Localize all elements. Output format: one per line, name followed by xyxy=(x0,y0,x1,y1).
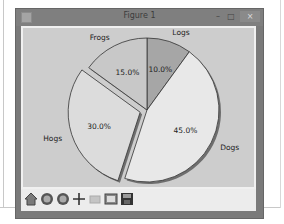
slice-label: Frogs xyxy=(90,33,110,42)
plot-area: Logs10.0%Dogs45.0%Hogs30.0%Frogs15.0% xyxy=(23,28,254,187)
home-button[interactable] xyxy=(23,191,38,207)
back-button[interactable] xyxy=(39,191,54,207)
save-button[interactable] xyxy=(119,191,134,207)
home-icon xyxy=(24,192,38,206)
forward-icon xyxy=(56,192,70,206)
zoom-button[interactable] xyxy=(87,191,102,207)
pie-chart: Logs10.0%Dogs45.0%Hogs30.0%Frogs15.0% xyxy=(23,28,254,187)
forward-button[interactable] xyxy=(55,191,70,207)
zoom-icon xyxy=(88,192,102,206)
slice-label: Hogs xyxy=(43,134,62,143)
page-border xyxy=(3,0,4,207)
title-bar[interactable]: Figure 1 – □ × xyxy=(16,9,263,26)
slice-label: Logs xyxy=(172,28,189,37)
back-icon xyxy=(40,192,54,206)
figure-window: Figure 1 – □ × Logs10.0%Dogs45.0%Hogs30.… xyxy=(16,9,263,218)
slice-percent-label: 15.0% xyxy=(115,68,139,77)
pan-icon xyxy=(72,192,86,206)
slice-percent-label: 30.0% xyxy=(87,122,111,131)
page-border xyxy=(280,0,281,208)
slice-percent-label: 45.0% xyxy=(174,126,198,135)
figure-canvas[interactable]: Logs10.0%Dogs45.0%Hogs30.0%Frogs15.0% xyxy=(21,26,256,189)
slice-percent-label: 10.0% xyxy=(148,65,172,74)
subplots-icon xyxy=(104,192,118,206)
maximize-button[interactable]: □ xyxy=(225,11,237,22)
save-icon xyxy=(120,192,134,206)
close-button[interactable]: × xyxy=(240,11,260,22)
configure-subplots-button[interactable] xyxy=(103,191,118,207)
pan-button[interactable] xyxy=(71,191,86,207)
navigation-toolbar xyxy=(21,189,256,211)
minimize-button[interactable]: – xyxy=(212,11,224,22)
slice-label: Dogs xyxy=(220,143,239,152)
